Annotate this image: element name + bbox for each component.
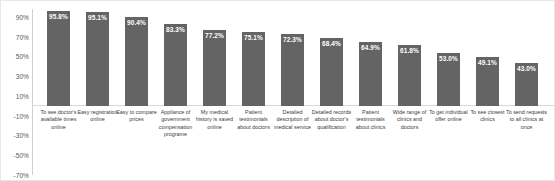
- y-axis-tick-label: 70%: [16, 33, 29, 40]
- bar-value-label: 64.9%: [359, 44, 382, 51]
- x-axis-category-label: To get individual offer online: [427, 109, 470, 124]
- bar-value-label: 49.1%: [476, 59, 499, 66]
- y-axis-tick-label: -70%: [13, 172, 29, 179]
- y-axis-tick-label: 50%: [16, 53, 29, 60]
- y-axis-tick-label: -30%: [13, 132, 29, 139]
- x-axis-category-label: My medical history is saved online: [193, 109, 236, 131]
- y-axis-tick-label: -50%: [13, 152, 29, 159]
- bar[interactable]: 90.4%: [125, 17, 148, 106]
- y-axis-tick-label: 90%: [16, 13, 29, 20]
- bar[interactable]: 53.0%: [437, 53, 460, 105]
- bar-group: 68.4%Detailed records about doctor's qua…: [312, 9, 351, 175]
- bar[interactable]: 83.3%: [164, 24, 187, 106]
- bar-value-label: 77.2%: [203, 32, 226, 39]
- bar[interactable]: 43.0%: [515, 63, 538, 105]
- bar[interactable]: 77.2%: [203, 30, 226, 106]
- x-axis-category-label: To send requests to all clinics at once: [505, 109, 548, 131]
- bar[interactable]: 49.1%: [476, 57, 499, 106]
- y-axis: 90%70%50%30%10%-10%-30%-50%-70%: [1, 1, 32, 181]
- bar[interactable]: 75.1%: [242, 32, 265, 106]
- bar[interactable]: 72.3%: [281, 34, 304, 105]
- bar[interactable]: 64.9%: [359, 42, 382, 106]
- bar-group: 90.4%Easy to compare prices: [117, 9, 156, 175]
- plot-area: 95.8%To see doctor's available times onl…: [33, 9, 555, 175]
- x-axis-category-label: Patient testimonials about doctors: [232, 109, 275, 131]
- bar-group: 75.1%Patient testimonials about doctors: [234, 9, 273, 175]
- bar-value-label: 95.1%: [86, 14, 109, 21]
- bar-value-label: 61.8%: [398, 47, 421, 54]
- x-axis-category-label: Easy registration online: [76, 109, 119, 124]
- bar-group: 49.1%To see closest clinics: [468, 9, 507, 175]
- bar-value-label: 72.3%: [281, 36, 304, 43]
- y-axis-tick-label: 30%: [16, 73, 29, 80]
- bar-chart: 90%70%50%30%10%-10%-30%-50%-70% 95.8%To …: [0, 0, 555, 181]
- bar-group: 77.2%My medical history is saved online: [195, 9, 234, 175]
- x-axis-category-label: Easy to compare prices: [115, 109, 158, 124]
- bar-value-label: 83.3%: [164, 26, 187, 33]
- bar[interactable]: 61.8%: [398, 45, 421, 106]
- bar[interactable]: 95.8%: [47, 11, 70, 106]
- bar-value-label: 43.0%: [515, 65, 538, 72]
- x-axis-category-label: Appliance of government compensation pro…: [154, 109, 197, 139]
- bar-group: 83.3%Appliance of government compensatio…: [156, 9, 195, 175]
- bar[interactable]: 68.4%: [320, 38, 343, 106]
- x-axis-category-label: Detailed records about doctor's qualific…: [310, 109, 353, 131]
- bar-value-label: 53.0%: [437, 55, 460, 62]
- bar-group: 95.1%Easy registration online: [78, 9, 117, 175]
- bar-value-label: 68.4%: [320, 40, 343, 47]
- y-axis-tick-label: -10%: [13, 112, 29, 119]
- bar-group: 95.8%To see doctor's available times onl…: [39, 9, 78, 175]
- bar-value-label: 90.4%: [125, 19, 148, 26]
- bar-group: 53.0%To get individual offer online: [429, 9, 468, 175]
- bar[interactable]: 95.1%: [86, 12, 109, 106]
- x-axis-category-label: Patient testimonials about clinics: [349, 109, 392, 131]
- x-axis-category-label: Wide range of clinics and doctors: [388, 109, 431, 131]
- bar-group: 43.0%To send requests to all clinics at …: [507, 9, 546, 175]
- bar-value-label: 95.8%: [47, 13, 70, 20]
- x-axis-category-label: To see closest clinics: [466, 109, 509, 124]
- bar-group: 61.8%Wide range of clinics and doctors: [390, 9, 429, 175]
- x-axis-category-label: To see doctor's available times online: [37, 109, 80, 131]
- bar-value-label: 75.1%: [242, 34, 265, 41]
- y-axis-tick-label: 10%: [16, 92, 29, 99]
- bar-group: 64.9%Patient testimonials about clinics: [351, 9, 390, 175]
- bar-group: 72.3%Detailed description of medical ser…: [273, 9, 312, 175]
- x-axis-category-label: Detailed description of medical service: [271, 109, 314, 131]
